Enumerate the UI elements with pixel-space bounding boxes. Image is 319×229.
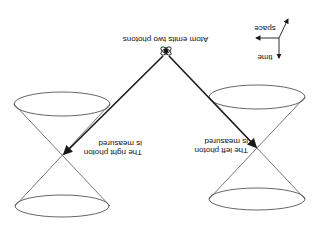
diagonal-axis-arrow: [279, 19, 288, 38]
right-cone-top-ellipse: [209, 85, 305, 109]
left-photon-measured-label: The left photon is measured: [194, 137, 248, 155]
left-cone-top-ellipse: [14, 92, 110, 116]
right-photon-measured-label: The right photon is measured: [80, 139, 142, 157]
photon-path-right: [169, 56, 256, 147]
atom-icon: [160, 45, 173, 56]
left-cone-bottom-ellipse: [15, 195, 109, 217]
left-photon-label-line2: is measured: [194, 137, 248, 146]
right-cone-bottom-ellipse: [209, 188, 305, 210]
time-axis-label: time: [254, 53, 276, 62]
space-axis-label: space: [253, 24, 277, 33]
right-photon-label-line2: is measured: [80, 139, 142, 148]
left-photon-label-line1: The left photon: [194, 146, 248, 155]
right-photon-label-line1: The right photon: [80, 148, 142, 157]
atom-caption: Atom emits two photons: [118, 35, 213, 44]
